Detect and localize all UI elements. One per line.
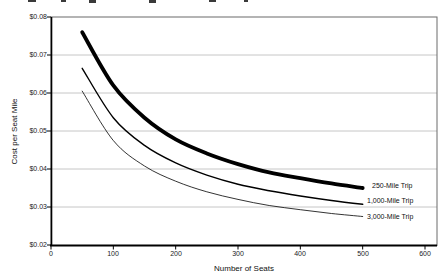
- y-axis-tick-label: $0.05: [21, 127, 47, 135]
- cost-per-seat-mile-chart: $0.02 $0.03 $0.04 $0.05 $0.06 $0.07 $0.0…: [0, 0, 446, 279]
- y-axis-tick-label: $0.03: [21, 203, 47, 211]
- x-axis-tick-label: 600: [410, 250, 440, 258]
- series-line-250-mile-trip: [82, 32, 363, 188]
- x-axis-title: Number of Seats: [51, 264, 437, 273]
- x-axis-tick-label: 200: [161, 250, 191, 258]
- x-axis-tick-label: 300: [223, 250, 253, 258]
- x-axis-tick-label: 100: [98, 250, 128, 258]
- series-label-250-mile-trip: 250-Mile Trip: [372, 182, 412, 190]
- x-axis-tick-label: 400: [285, 250, 315, 258]
- y-axis-tick-label: $0.08: [21, 13, 47, 21]
- y-axis-title: Cost per Seat Mile: [10, 89, 19, 175]
- y-axis-tick-label: $0.06: [21, 89, 47, 97]
- y-axis-tick-label: $0.02: [21, 241, 47, 249]
- series-line-1-000-mile-trip: [82, 68, 363, 204]
- x-axis-tick-label: 0: [36, 250, 66, 258]
- y-axis-tick-label: $0.07: [21, 51, 47, 59]
- y-axis-tick-label: $0.04: [21, 165, 47, 173]
- plot-area: [0, 0, 446, 279]
- series-line-3-000-mile-trip: [82, 91, 363, 216]
- series-label-3000-mile-trip: 3,000-Mile Trip: [367, 213, 413, 221]
- series-label-1000-mile-trip: 1,000-Mile Trip: [367, 197, 413, 205]
- x-axis-tick-label: 500: [348, 250, 378, 258]
